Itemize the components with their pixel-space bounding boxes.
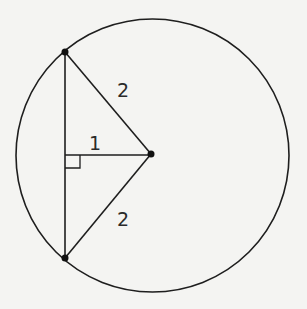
- chord-bottom-point: [62, 255, 69, 262]
- right-angle-marker-icon: [65, 155, 80, 168]
- lower-radius-label: 2: [117, 208, 129, 230]
- center-point: [148, 151, 155, 158]
- perpendicular-distance-label: 1: [89, 132, 101, 154]
- upper-radius-segment: [65, 52, 151, 154]
- lower-radius-segment: [65, 154, 151, 258]
- geometry-diagram: 2 1 2: [0, 0, 307, 309]
- chord-top-point: [62, 49, 69, 56]
- upper-radius-label: 2: [117, 79, 129, 101]
